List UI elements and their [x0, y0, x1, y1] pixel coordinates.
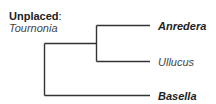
leaf-label-basella: Basella	[158, 90, 197, 102]
phylogenetic-tree	[0, 0, 216, 104]
leaf-label-anredera: Anredera	[158, 20, 206, 32]
leaf-label-ullucus: Ullucus	[158, 56, 194, 68]
